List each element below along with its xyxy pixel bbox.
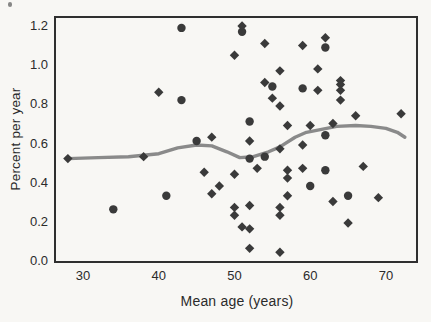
- data-point-diamond: [230, 170, 239, 179]
- data-point-diamond: [351, 111, 360, 120]
- x-tick-label: 30: [76, 268, 90, 283]
- data-point-circle: [192, 137, 200, 145]
- data-point-diamond: [207, 189, 216, 198]
- y-tick-label: 0.0: [30, 253, 48, 268]
- data-point-diamond: [245, 224, 254, 233]
- data-point-diamond: [237, 222, 246, 231]
- data-point-diamond: [260, 78, 269, 87]
- data-point-diamond: [283, 173, 292, 182]
- data-point-diamond: [268, 93, 277, 102]
- data-point-diamond: [199, 168, 208, 177]
- data-point-diamond: [275, 248, 284, 257]
- data-point-diamond: [230, 51, 239, 60]
- data-point-diamond: [154, 88, 163, 97]
- x-tick-label: 60: [303, 268, 317, 283]
- data-point-diamond: [298, 140, 307, 149]
- data-point-diamond: [283, 121, 292, 130]
- data-point-circle: [245, 154, 253, 162]
- data-point-circle: [321, 166, 329, 174]
- scatter-plot-figure: Percent per year Mean age (years) 304050…: [0, 0, 431, 322]
- plot-area: 30405060700.00.20.40.60.81.01.2: [0, 0, 431, 322]
- data-point-diamond: [359, 162, 368, 171]
- data-point-circle: [321, 43, 329, 51]
- data-point-diamond: [313, 64, 322, 73]
- data-point-circle: [306, 182, 314, 190]
- data-point-diamond: [245, 136, 254, 145]
- data-point-diamond: [253, 164, 262, 173]
- data-point-diamond: [298, 41, 307, 50]
- data-point-diamond: [230, 210, 239, 219]
- data-point-circle: [268, 82, 276, 90]
- y-tick-label: 0.8: [30, 96, 48, 111]
- data-point-circle: [109, 205, 117, 213]
- data-point-circle: [177, 96, 185, 104]
- y-tick-label: 0.4: [30, 175, 48, 190]
- data-point-diamond: [321, 33, 330, 42]
- data-point-diamond: [63, 154, 72, 163]
- data-point-diamond: [275, 210, 284, 219]
- data-point-diamond: [275, 101, 284, 110]
- data-point-circle: [344, 191, 352, 199]
- data-point-circle: [298, 84, 306, 92]
- data-point-diamond: [343, 218, 352, 227]
- y-tick-label: 0.2: [30, 214, 48, 229]
- y-tick-label: 1.0: [30, 57, 48, 72]
- data-point-diamond: [245, 244, 254, 253]
- data-point-diamond: [298, 164, 307, 173]
- x-tick-label: 40: [152, 268, 166, 283]
- data-point-circle: [261, 152, 269, 160]
- data-point-diamond: [275, 66, 284, 75]
- data-point-diamond: [336, 95, 345, 104]
- data-point-diamond: [283, 191, 292, 200]
- y-tick-label: 0.6: [30, 136, 48, 151]
- data-point-diamond: [313, 86, 322, 95]
- data-point-diamond: [328, 197, 337, 206]
- data-point-circle: [321, 131, 329, 139]
- data-point-circle: [177, 24, 185, 32]
- data-point-diamond: [260, 39, 269, 48]
- data-point-diamond: [396, 109, 405, 118]
- data-point-circle: [245, 117, 253, 125]
- data-point-circle: [162, 191, 170, 199]
- data-point-diamond: [336, 86, 345, 95]
- data-point-diamond: [374, 193, 383, 202]
- data-point-diamond: [306, 121, 315, 130]
- data-point-diamond: [245, 201, 254, 210]
- x-tick-label: 50: [227, 268, 241, 283]
- smooth-trend-line: [68, 126, 405, 159]
- x-tick-label: 70: [379, 268, 393, 283]
- y-tick-label: 1.2: [30, 18, 48, 33]
- data-point-diamond: [215, 181, 224, 190]
- data-point-diamond: [207, 132, 216, 141]
